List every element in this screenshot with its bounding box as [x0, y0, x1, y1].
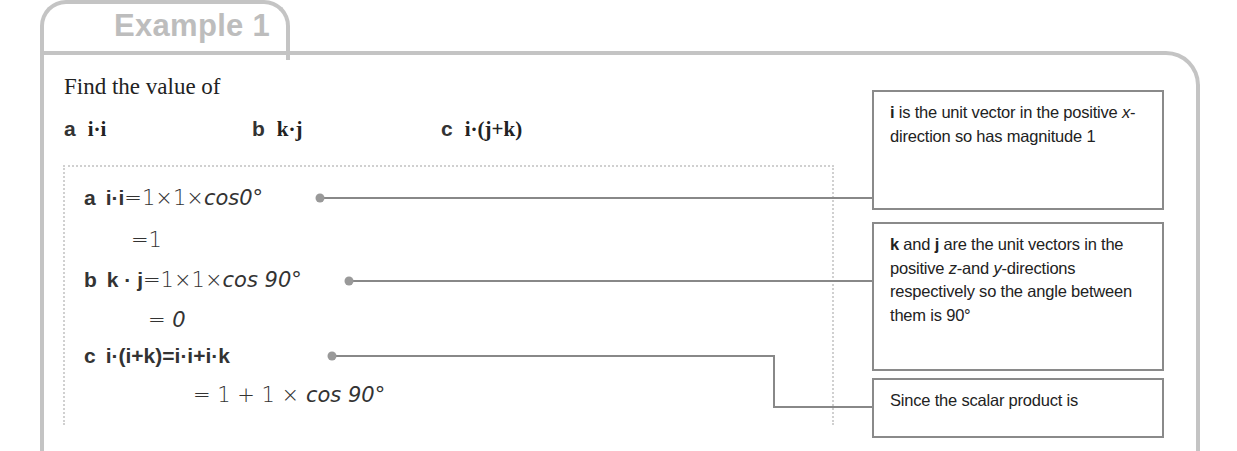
- note-text: Since the scalar product is: [890, 391, 1078, 409]
- note-italic-var: x: [1122, 103, 1130, 121]
- connector-dot-b: [345, 277, 354, 286]
- note-italic-var: z: [949, 259, 957, 277]
- note-box-b: k and j are the unit vectors in the posi…: [872, 222, 1164, 371]
- connector-dot-a: [316, 194, 325, 203]
- note-text: is the unit vector in the positive: [894, 103, 1122, 121]
- note-box-a: i is the unit vector in the positive x-d…: [872, 90, 1164, 210]
- note-text: and: [899, 235, 935, 253]
- note-bold-term: k: [890, 235, 899, 253]
- note-box-c: Since the scalar product is: [872, 378, 1164, 438]
- connector-dot-c: [328, 352, 337, 361]
- note-text: -and: [957, 259, 994, 277]
